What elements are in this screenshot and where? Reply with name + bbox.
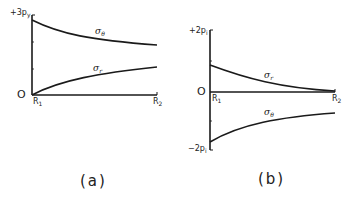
panel-b-r2-label: R2 xyxy=(332,95,341,104)
panel-b-r1-label: R1 xyxy=(212,95,221,104)
stress-distribution-diagram xyxy=(0,0,355,198)
panel-b-sigma-r-label: σr xyxy=(264,71,273,81)
panel-a-r1-label: R1 xyxy=(33,98,42,107)
panel-a-sigma-r-label: σr xyxy=(93,64,102,74)
panel-a-origin-label: O xyxy=(17,89,26,100)
panel-b-origin-label: O xyxy=(197,86,206,97)
panel-b-caption: (b) xyxy=(258,172,285,187)
panel-a-y-max-label: +3py xyxy=(10,9,30,18)
panel-a-r2-label: R2 xyxy=(153,98,162,107)
panel-a-caption: (a) xyxy=(80,174,107,189)
panel-b-y-max-label: +2pi xyxy=(189,27,208,36)
panel-a-sigma-theta-label: σθ xyxy=(95,27,105,37)
panel-b-plot xyxy=(210,30,335,150)
panel-b-y-min-label: −2pi xyxy=(188,145,207,154)
panel-b-sigma-theta-label: σθ xyxy=(264,108,274,118)
